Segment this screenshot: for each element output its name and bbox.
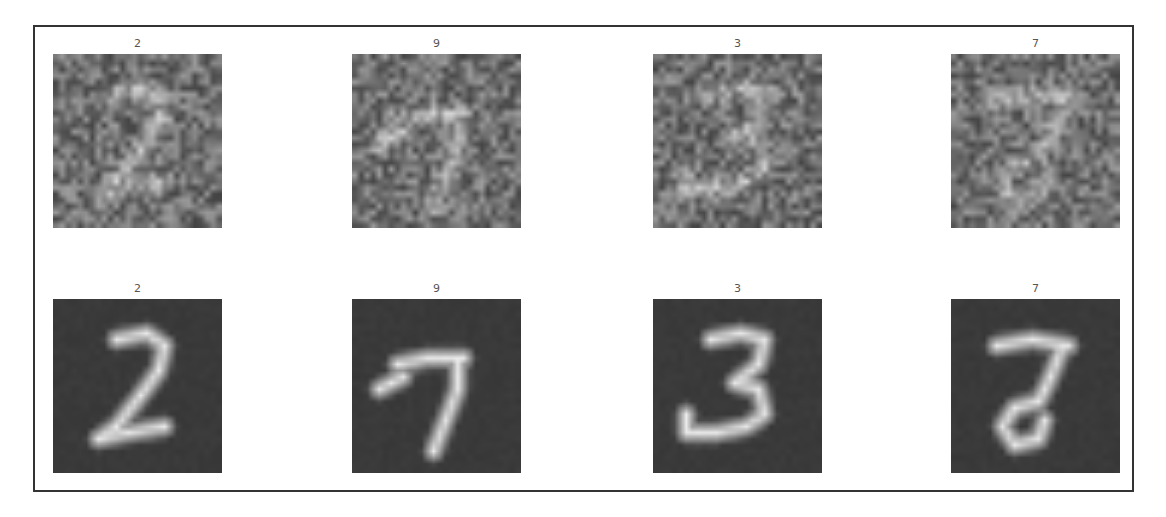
clean-image-cell-2: 9 <box>352 282 521 473</box>
image-title: 2 <box>53 282 222 296</box>
image-title: 9 <box>352 282 521 296</box>
clean-image-cell-1: 2 <box>53 282 222 473</box>
image-title: 7 <box>951 282 1120 296</box>
noisy-digit-image <box>653 54 822 228</box>
noisy-digit-image <box>951 54 1120 228</box>
image-title: 2 <box>53 37 222 51</box>
image-title: 3 <box>653 37 822 51</box>
noisy-digit-image <box>53 54 222 228</box>
noisy-image-cell-4: 7 <box>951 37 1120 228</box>
reconstructed-digit-image <box>653 299 822 473</box>
image-title: 3 <box>653 282 822 296</box>
noisy-image-cell-1: 2 <box>53 37 222 228</box>
image-title: 9 <box>352 37 521 51</box>
noisy-digit-image <box>352 54 521 228</box>
noisy-image-cell-3: 3 <box>653 37 822 228</box>
clean-image-cell-4: 7 <box>951 282 1120 473</box>
reconstructed-digit-image <box>951 299 1120 473</box>
reconstructed-digit-image <box>352 299 521 473</box>
reconstructed-digit-image <box>53 299 222 473</box>
clean-image-cell-3: 3 <box>653 282 822 473</box>
image-title: 7 <box>951 37 1120 51</box>
noisy-image-cell-2: 9 <box>352 37 521 228</box>
